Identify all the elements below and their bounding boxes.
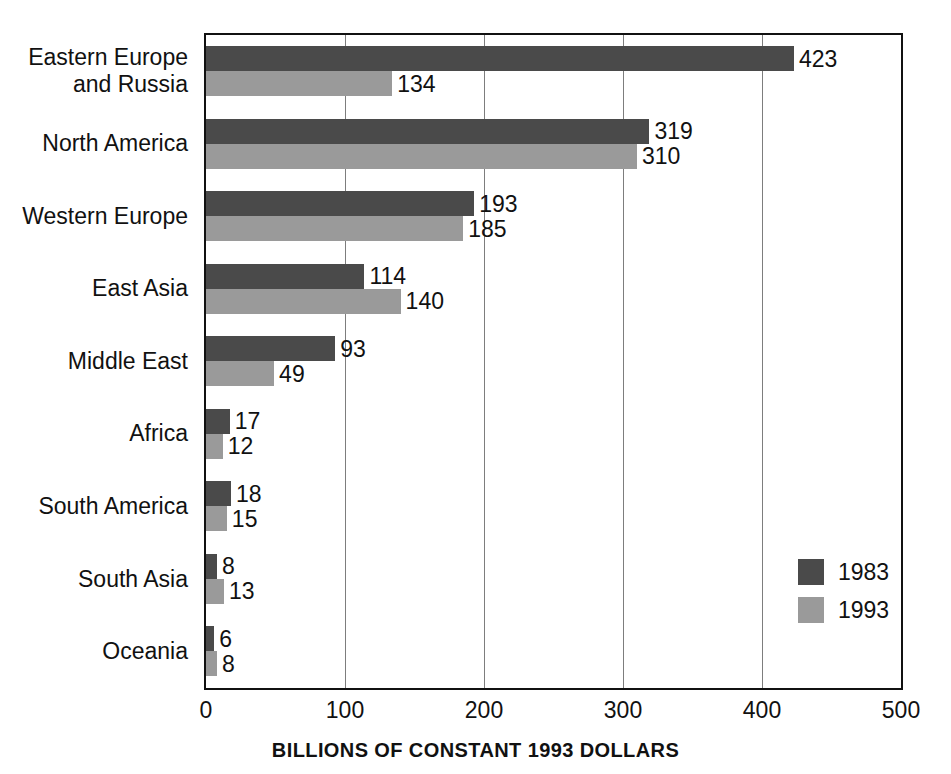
bar-1983: 17 (206, 409, 230, 434)
bar-group: 813 (206, 543, 901, 616)
category-label: Eastern Europe and Russia (0, 35, 196, 108)
bar-group: 1815 (206, 470, 901, 543)
bar-1993: 8 (206, 651, 217, 676)
legend-swatch-icon (798, 597, 824, 623)
legend-label: 1993 (838, 597, 889, 624)
bar-group: 193185 (206, 180, 901, 253)
bar-group: 9349 (206, 325, 901, 398)
x-axis-tick-label: 0 (200, 697, 213, 724)
bar-1983: 193 (206, 191, 474, 216)
category-label: South America (0, 470, 196, 543)
bar-1993: 140 (206, 289, 401, 314)
bar-group: 68 (206, 615, 901, 688)
bar-group: 1712 (206, 398, 901, 471)
bar-1993: 49 (206, 361, 274, 386)
bar-value-label: 134 (397, 72, 435, 95)
x-axis-tick-label: 200 (465, 697, 503, 724)
category-label: South Asia (0, 543, 196, 616)
bar-group: 319310 (206, 108, 901, 181)
category-label: Africa (0, 398, 196, 471)
bar-1983: 6 (206, 626, 214, 651)
bar-value-label: 319 (654, 120, 692, 143)
category-label: Middle East (0, 325, 196, 398)
bar-1993: 310 (206, 144, 637, 169)
bar-1983: 93 (206, 336, 335, 361)
bar-value-label: 193 (479, 192, 517, 215)
bar-1993: 185 (206, 216, 463, 241)
bar-value-label: 13 (229, 580, 255, 603)
bar-1983: 423 (206, 46, 794, 71)
bar-1983: 8 (206, 554, 217, 579)
bar-1983: 18 (206, 481, 231, 506)
x-axis-tick-label: 400 (743, 697, 781, 724)
bar-1983: 114 (206, 264, 364, 289)
bar-1993: 12 (206, 434, 223, 459)
bar-1993: 134 (206, 71, 392, 96)
category-label: East Asia (0, 253, 196, 326)
bar-chart: Eastern Europe and RussiaNorth AmericaWe… (0, 0, 951, 774)
bar-group: 423134 (206, 35, 901, 108)
legend-label: 1983 (838, 559, 889, 586)
x-axis-tick-label: 100 (326, 697, 364, 724)
bar-1983: 319 (206, 119, 649, 144)
x-axis-tick-label: 300 (604, 697, 642, 724)
category-axis-labels: Eastern Europe and RussiaNorth AmericaWe… (0, 35, 196, 688)
bar-value-label: 12 (228, 435, 254, 458)
bar-value-label: 18 (236, 482, 262, 505)
category-label: North America (0, 108, 196, 181)
bar-value-label: 310 (642, 145, 680, 168)
x-axis-title: BILLIONS OF CONSTANT 1993 DOLLARS (0, 739, 951, 762)
bar-value-label: 140 (406, 290, 444, 313)
bar-value-label: 185 (468, 217, 506, 240)
x-axis-tick-label: 500 (882, 697, 920, 724)
bar-value-label: 423 (799, 47, 837, 70)
legend-swatch-icon (798, 559, 824, 585)
bar-value-label: 114 (369, 265, 406, 288)
bar-rows: 4231343193101931851141409349171218158136… (206, 35, 901, 688)
bar-value-label: 6 (219, 627, 232, 650)
bar-group: 114140 (206, 253, 901, 326)
bar-value-label: 15 (232, 507, 258, 530)
bar-value-label: 8 (222, 555, 235, 578)
category-label: Western Europe (0, 180, 196, 253)
bar-value-label: 49 (279, 362, 305, 385)
bar-1993: 13 (206, 579, 224, 604)
legend-item: 1993 (798, 591, 898, 629)
legend-item: 1983 (798, 553, 898, 591)
bar-value-label: 17 (235, 410, 261, 433)
category-label: Oceania (0, 615, 196, 688)
bar-value-label: 93 (340, 337, 366, 360)
chart-legend: 19831993 (798, 553, 898, 629)
bar-1993: 15 (206, 506, 227, 531)
bar-value-label: 8 (222, 652, 235, 675)
